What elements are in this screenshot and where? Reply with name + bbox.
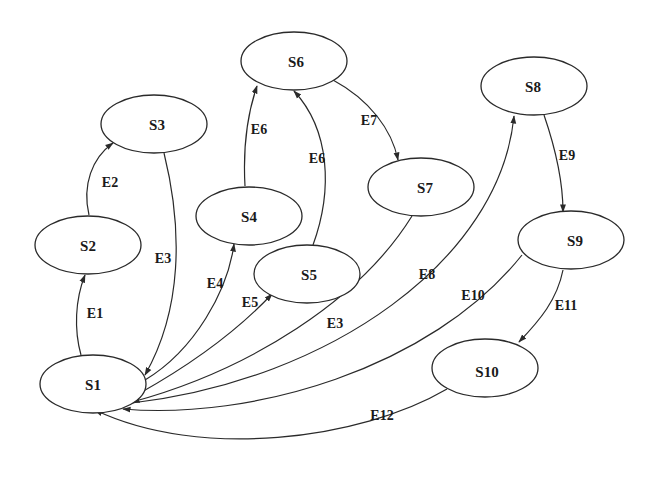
edge-label-e12: E12 [370,408,393,423]
state-node-s8[interactable]: S8 [481,57,587,115]
edge-label-e6-a: E6 [251,122,267,137]
state-node-s4[interactable]: S4 [196,187,302,245]
state-label-s4: S4 [241,209,257,225]
state-label-s5: S5 [301,267,317,283]
state-node-s3[interactable]: S3 [101,95,207,153]
edge-label-e4: E4 [207,276,223,291]
state-node-s1[interactable]: S1 [40,355,146,413]
edge-e9-s8-to-s9 [544,115,563,212]
state-label-s10: S10 [475,364,498,380]
state-node-s9[interactable]: S9 [518,211,624,269]
state-label-s8: S8 [525,79,541,95]
edge-label-e3-b: E3 [327,316,343,331]
state-diagram: E1 E2 E3 E4 E5 E6 E6 E7 E3 E8 E9 E10 E11… [0,0,659,477]
edge-e3-s7-to-s1 [132,216,412,402]
edge-label-e1: E1 [87,306,103,321]
edge-label-e9: E9 [559,148,575,163]
state-node-s5[interactable]: S5 [254,245,360,303]
edge-label-e7: E7 [361,113,377,128]
edge-label-e11: E11 [555,298,578,313]
state-node-s6[interactable]: S6 [241,32,347,90]
state-node-s10[interactable]: S10 [432,339,538,397]
edge-e1-s1-to-s2 [76,275,85,355]
edge-label-e3-a: E3 [155,251,171,266]
state-node-s2[interactable]: S2 [35,216,141,274]
edge-label-e10: E10 [461,288,484,303]
state-label-s7: S7 [417,180,433,196]
state-node-s7[interactable]: S7 [368,158,474,216]
edge-label-e5: E5 [242,295,258,310]
state-label-s6: S6 [288,54,304,70]
state-label-s1: S1 [85,377,101,393]
edge-label-e6-b: E6 [309,151,325,166]
state-label-s9: S9 [567,233,583,249]
state-label-s2: S2 [80,238,96,254]
edge-e12-s10-to-s1 [95,389,447,439]
edge-label-e8: E8 [419,267,435,282]
state-label-s3: S3 [149,117,165,133]
edge-label-e2: E2 [102,175,118,190]
